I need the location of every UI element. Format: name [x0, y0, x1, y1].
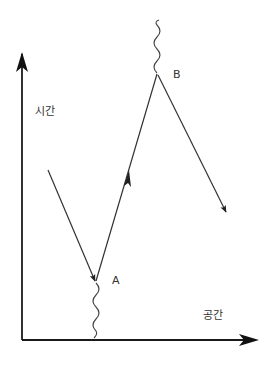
space-axis [22, 334, 259, 346]
point-b-label: B [173, 69, 181, 80]
point-a-label: A [112, 275, 120, 286]
spacetime-diagram [0, 0, 264, 371]
wavy-line-a [93, 283, 99, 338]
wavy-line-b [154, 20, 160, 73]
incoming-worldline [48, 170, 95, 281]
worldline-a-to-b [96, 74, 157, 281]
space-axis-label: 공간 [203, 310, 223, 321]
outgoing-worldline [158, 75, 226, 212]
time-axis-label: 시간 [35, 106, 55, 117]
time-axis [16, 52, 28, 340]
